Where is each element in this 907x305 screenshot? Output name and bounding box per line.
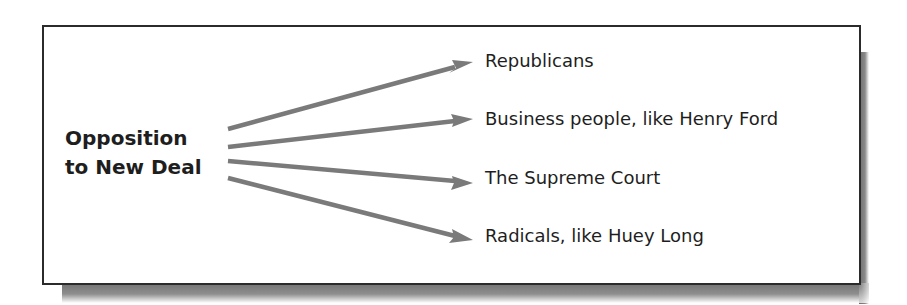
arrow-to-supreme-court	[228, 161, 455, 181]
arrow-to-radicals	[228, 178, 455, 236]
arrow-to-republicans	[228, 67, 455, 129]
arrowhead-icon	[451, 114, 473, 127]
arrows	[0, 0, 907, 305]
target-business-people: Business people, like Henry Ford	[485, 108, 778, 130]
arrowhead-icon	[451, 176, 473, 190]
target-radicals: Radicals, like Huey Long	[485, 225, 704, 247]
target-republicans: Republicans	[485, 50, 594, 72]
target-supreme-court: The Supreme Court	[485, 167, 660, 189]
arrow-to-business	[228, 121, 455, 147]
